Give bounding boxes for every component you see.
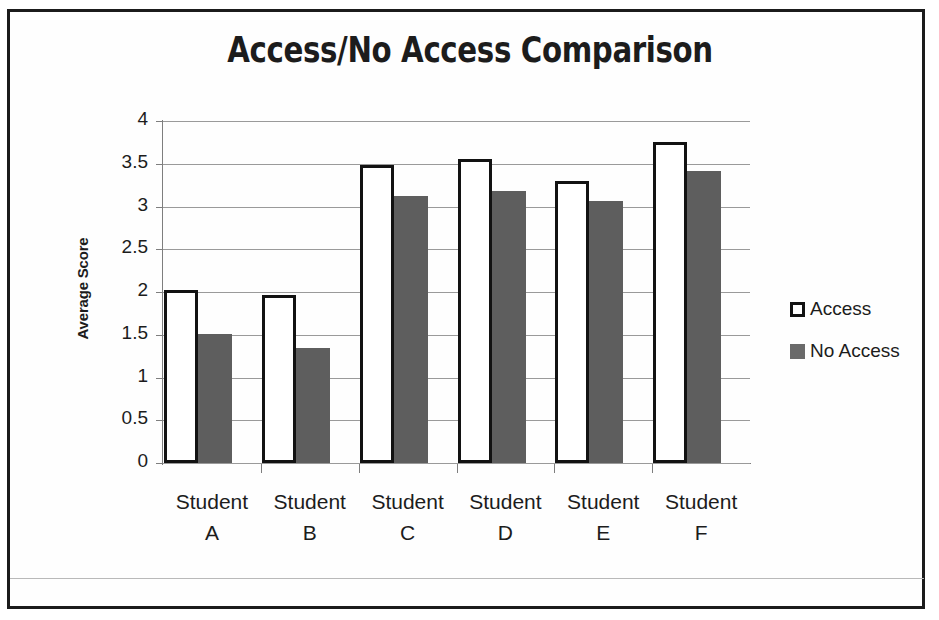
bar-group (653, 121, 721, 463)
bar-access[interactable] (164, 290, 198, 463)
y-axis-tick-mark (156, 292, 163, 293)
bar-no-access[interactable] (589, 201, 623, 463)
bar-group (360, 121, 428, 463)
bar-access[interactable] (360, 165, 394, 463)
y-axis-tick-mark (156, 378, 163, 379)
category-label-line1: Student (665, 490, 737, 513)
category-label-line2: A (160, 517, 264, 548)
category-label-line1: Student (176, 490, 248, 513)
x-axis-tick-mark (359, 464, 360, 473)
y-axis-tick-label: 2 (96, 279, 148, 301)
bar-access[interactable] (262, 295, 296, 463)
y-axis-tick-mark (156, 207, 163, 208)
x-axis-category-label: StudentE (551, 486, 655, 548)
x-axis-category-label: StudentD (453, 486, 557, 548)
legend-label-access: Access (810, 298, 871, 320)
legend-swatch-access-icon (790, 302, 805, 317)
x-axis-tick-mark (457, 464, 458, 473)
y-axis-tick-label: 0 (96, 450, 148, 472)
legend-item-access[interactable]: Access (790, 298, 900, 320)
legend-label-no-access: No Access (810, 340, 900, 362)
category-label-line2: E (551, 517, 655, 548)
y-axis-tick-mark (156, 335, 163, 336)
category-label-line1: Student (567, 490, 639, 513)
bar-group (555, 121, 623, 463)
x-axis-tick-mark (261, 464, 262, 473)
bar-chart: Access/No Access Comparison Average Scor… (0, 0, 939, 620)
y-axis-tick-label: 2.5 (96, 236, 148, 258)
bar-no-access[interactable] (394, 196, 428, 463)
y-axis-title: Average Score (74, 199, 91, 379)
category-label-line2: D (453, 517, 557, 548)
x-axis-tick-mark (554, 464, 555, 473)
x-axis-category-label: StudentA (160, 486, 264, 548)
x-axis-category-label: StudentC (356, 486, 460, 548)
legend-swatch-no-access-icon (790, 344, 805, 359)
y-axis-tick-mark (156, 121, 163, 122)
bar-group (164, 121, 232, 463)
bar-no-access[interactable] (198, 334, 232, 463)
x-axis-category-label: StudentF (649, 486, 753, 548)
legend-item-no-access[interactable]: No Access (790, 340, 900, 362)
category-label-line1: Student (371, 490, 443, 513)
y-axis-tick-mark (156, 164, 163, 165)
x-axis-tick-mark (652, 464, 653, 473)
y-axis-tick-label: 4 (96, 108, 148, 130)
bar-access[interactable] (458, 159, 492, 463)
category-label-line1: Student (469, 490, 541, 513)
y-axis-tick-label: 1 (96, 365, 148, 387)
bar-access[interactable] (555, 181, 589, 463)
y-axis-tick-label: 3.5 (96, 151, 148, 173)
y-axis-tick-label: 3 (96, 194, 148, 216)
category-label-line2: C (356, 517, 460, 548)
chart-title: Access/No Access Comparison (145, 30, 796, 70)
chart-legend: Access No Access (790, 298, 900, 382)
bar-group (262, 121, 330, 463)
category-label-line1: Student (274, 490, 346, 513)
bar-no-access[interactable] (492, 191, 526, 463)
category-label-line2: F (649, 517, 753, 548)
y-axis-tick-mark (156, 463, 163, 464)
x-axis-category-label: StudentB (258, 486, 362, 548)
bar-no-access[interactable] (296, 348, 330, 463)
bar-access[interactable] (653, 142, 687, 463)
y-axis-tick-mark (156, 249, 163, 250)
y-axis-tick-mark (156, 420, 163, 421)
bar-group (458, 121, 526, 463)
y-axis-tick-label: 0.5 (96, 407, 148, 429)
y-axis-tick-label: 1.5 (96, 322, 148, 344)
bar-no-access[interactable] (687, 171, 721, 463)
category-label-line2: B (258, 517, 362, 548)
